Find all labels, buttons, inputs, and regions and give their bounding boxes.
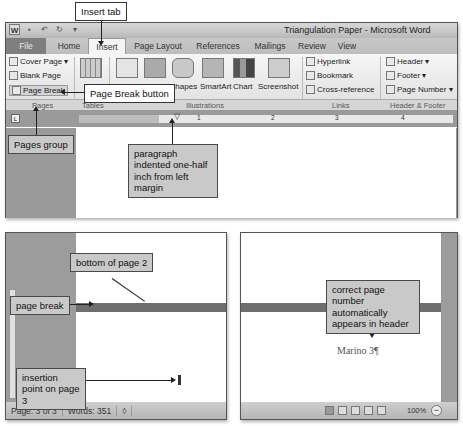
shapes-icon[interactable] xyxy=(172,58,194,78)
callout-page-break-button: Page Break button xyxy=(84,84,175,103)
ribbon-tabs: File Home Insert Page Layout References … xyxy=(6,38,457,54)
title-bar: W ▪ ↶ ↻ ▾ Triangulation Paper - Microsof… xyxy=(6,23,457,38)
status-bar: 100% − xyxy=(241,402,457,419)
links-group-label: Links xyxy=(332,101,350,110)
smartart-label[interactable]: SmartArt xyxy=(200,82,232,91)
table-icon[interactable] xyxy=(80,58,102,78)
callout-page-number: correct page number automatically appear… xyxy=(326,280,420,334)
page-3-top[interactable] xyxy=(76,312,226,404)
save-icon[interactable]: ▪ xyxy=(24,24,35,35)
ribbon-group-labels: Pages Tables Illustrations Links Header … xyxy=(6,100,457,111)
page-break-gap xyxy=(76,303,226,312)
page-break-button[interactable]: Page Break xyxy=(9,85,68,96)
callout-pages-group: Pages group xyxy=(8,135,74,154)
screenshot-label[interactable]: Screenshot xyxy=(258,82,298,91)
horizontal-ruler[interactable]: 1 2 3 4 ▽ xyxy=(78,114,454,124)
picture-icon[interactable] xyxy=(116,58,138,78)
header-footer-group-label: Header & Footer xyxy=(390,101,445,110)
page-break-icon xyxy=(12,86,21,95)
footer-icon xyxy=(386,71,395,80)
callout-line xyxy=(64,92,84,93)
bookmark-icon xyxy=(306,71,315,80)
clip-art-icon[interactable] xyxy=(144,58,166,78)
web-layout-icon[interactable] xyxy=(351,406,360,415)
zoom-level[interactable]: 100% xyxy=(407,406,426,415)
cross-reference-icon xyxy=(306,85,315,94)
hyperlink-icon xyxy=(306,57,315,66)
callout-line xyxy=(36,110,37,135)
header-icon xyxy=(386,57,395,66)
insertion-point xyxy=(178,375,181,385)
callout-bottom-of-page2: bottom of page 2 xyxy=(70,253,153,272)
tab-review[interactable]: Review xyxy=(294,38,330,54)
callout-page-break: page break xyxy=(10,296,70,315)
print-layout-icon[interactable] xyxy=(325,406,334,415)
callout-line xyxy=(86,380,172,381)
outline-icon[interactable] xyxy=(364,406,373,415)
ruler-margin xyxy=(79,115,159,123)
callout-insert-tab: Insert tab xyxy=(75,2,127,21)
tab-file[interactable]: File xyxy=(6,38,46,54)
word-window-top: W ▪ ↶ ↻ ▾ Triangulation Paper - Microsof… xyxy=(5,22,458,218)
customize-icon[interactable]: ▾ xyxy=(69,24,80,35)
cover-page-button[interactable]: Cover Page ▾ xyxy=(9,57,68,66)
tab-view[interactable]: View xyxy=(332,38,362,54)
hyperlink-button[interactable]: Hyperlink xyxy=(306,57,350,66)
ruler-row: L 1 2 3 4 ▽ xyxy=(6,111,457,127)
callout-line xyxy=(101,18,102,42)
zoom-out-icon[interactable]: − xyxy=(431,405,442,416)
header-page-number[interactable]: Marino 3¶ xyxy=(337,345,378,356)
tab-page-layout[interactable]: Page Layout xyxy=(128,38,188,54)
page-number-icon xyxy=(386,85,395,94)
chart-icon[interactable] xyxy=(233,58,255,78)
page-number-button[interactable]: Page Number ▾ xyxy=(386,85,453,94)
illustrations-group-label: Illustrations xyxy=(186,101,224,110)
tab-references[interactable]: References xyxy=(190,38,246,54)
cover-page-icon xyxy=(9,57,18,66)
tab-home[interactable]: Home xyxy=(50,38,88,54)
undo-icon[interactable]: ↶ xyxy=(39,24,50,35)
header-button[interactable]: Header ▾ xyxy=(386,57,429,66)
word-logo-icon[interactable]: W xyxy=(9,24,20,35)
screenshot-icon[interactable] xyxy=(268,58,290,78)
draft-icon[interactable] xyxy=(377,406,386,415)
ribbon: Cover Page ▾ Blank Page Page Break Shape… xyxy=(6,54,457,100)
window-title: Triangulation Paper - Microsoft Word xyxy=(284,25,431,35)
blank-page-button[interactable]: Blank Page xyxy=(9,71,61,80)
quick-access-toolbar: W ▪ ↶ ↻ ▾ xyxy=(9,24,80,35)
tab-mailings[interactable]: Mailings xyxy=(248,38,292,54)
blank-page-icon xyxy=(9,71,18,80)
callout-insertion-point: insertion point on page 3 xyxy=(16,368,86,410)
cross-reference-button[interactable]: Cross-reference xyxy=(306,85,374,94)
bookmark-button[interactable]: Bookmark xyxy=(306,71,353,80)
redo-icon[interactable]: ↻ xyxy=(54,24,65,35)
callout-line xyxy=(172,122,173,144)
full-screen-reading-icon[interactable] xyxy=(338,406,347,415)
chart-label[interactable]: Chart xyxy=(233,82,253,91)
footer-button[interactable]: Footer ▾ xyxy=(386,71,426,80)
tab-selector-icon[interactable]: L xyxy=(11,114,20,123)
smartart-icon[interactable] xyxy=(202,58,224,78)
callout-paragraph-indent: paragraph indented one-half inch from le… xyxy=(128,144,218,198)
tab-insert[interactable]: Insert xyxy=(88,38,126,55)
proofing-icon[interactable]: ◊ xyxy=(117,406,132,416)
